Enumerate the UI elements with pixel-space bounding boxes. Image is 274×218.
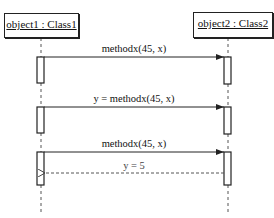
message-label-3: methodx(45, x): [102, 138, 167, 149]
return-label: y = 5: [123, 160, 145, 171]
message-label-1: methodx(45, x): [102, 43, 167, 54]
object2-label: object2 : Class2: [198, 17, 268, 29]
lifeline-header-object1[interactable]: object1 : Class1: [4, 13, 79, 38]
object1-label: object1 : Class1: [6, 18, 76, 30]
lifeline-header-object2[interactable]: object2 : Class2: [193, 12, 273, 38]
message-label-2: y = methodx(45, x): [93, 93, 174, 104]
